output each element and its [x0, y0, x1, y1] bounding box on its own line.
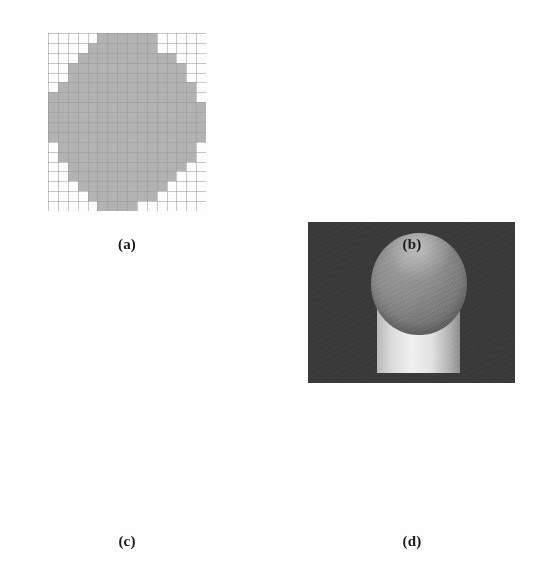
- grid-cell: [58, 171, 68, 181]
- grid-cell: [157, 102, 167, 112]
- grid-cell: [176, 191, 186, 201]
- grid-cell: [176, 112, 186, 122]
- grid-cell: [176, 152, 186, 162]
- grid-cell: [107, 33, 117, 43]
- grid-cell: [68, 112, 78, 122]
- grid-cell: [78, 162, 88, 172]
- grid-cell: [107, 181, 117, 191]
- grid-cell: [97, 33, 107, 43]
- grid-cell: [186, 112, 196, 122]
- grid-cell: [58, 82, 68, 92]
- grid-cell: [147, 63, 157, 73]
- grid-cell: [137, 132, 147, 142]
- grid-cell: [127, 43, 137, 53]
- grid-cell: [48, 142, 58, 152]
- grid-cell: [137, 162, 147, 172]
- caption-panel-a: (a): [88, 236, 166, 253]
- grid-cell: [147, 171, 157, 181]
- grid-cell: [107, 73, 117, 83]
- grid-cell: [68, 73, 78, 83]
- grid-cell: [186, 43, 196, 53]
- grid-cell: [107, 191, 117, 201]
- grid-cell: [117, 53, 127, 63]
- grid-cell: [157, 191, 167, 201]
- grid-cell: [117, 112, 127, 122]
- grid-cell: [127, 82, 137, 92]
- grid-cell: [78, 33, 88, 43]
- grid-cell: [107, 92, 117, 102]
- grid-cell: [48, 92, 58, 102]
- grid-cell: [117, 132, 127, 142]
- grid-cell: [88, 181, 98, 191]
- grid-cell: [167, 181, 177, 191]
- grid-cell: [97, 201, 107, 211]
- grid-cell: [127, 102, 137, 112]
- grid-cell: [88, 132, 98, 142]
- grid-cell: [157, 43, 167, 53]
- grid-cell: [88, 33, 98, 43]
- grid-cell: [97, 73, 107, 83]
- grid-cell: [68, 102, 78, 112]
- grid-cell: [97, 122, 107, 132]
- grid-cell: [48, 63, 58, 73]
- grid-cell: [78, 43, 88, 53]
- grid-cell: [88, 112, 98, 122]
- grid-cell: [97, 171, 107, 181]
- grid-cell: [186, 162, 196, 172]
- grid-cell: [117, 33, 127, 43]
- grid-cell: [97, 181, 107, 191]
- grid-cell: [78, 53, 88, 63]
- grid-cell: [186, 152, 196, 162]
- grid-cell: [127, 92, 137, 102]
- grid-cell: [68, 152, 78, 162]
- grid-cell: [117, 171, 127, 181]
- grid-cell: [97, 142, 107, 152]
- grid-cell: [88, 43, 98, 53]
- grid-cell: [58, 181, 68, 191]
- caption-panel-d: (d): [373, 533, 451, 550]
- grid-cell: [107, 102, 117, 112]
- grid-cell: [58, 162, 68, 172]
- grid-cell: [137, 92, 147, 102]
- grid-cell: [127, 73, 137, 83]
- grid-cell: [58, 142, 68, 152]
- grid-cell: [107, 162, 117, 172]
- grid-cell: [88, 191, 98, 201]
- grid-cell: [97, 112, 107, 122]
- grid-cell: [176, 132, 186, 142]
- grid-cell: [48, 33, 58, 43]
- grid-cell: [48, 171, 58, 181]
- grid-cell: [68, 132, 78, 142]
- grid-cell: [137, 191, 147, 201]
- grid-cell: [117, 82, 127, 92]
- grid-cell: [186, 191, 196, 201]
- grid-cell: [78, 122, 88, 132]
- grid-cell: [58, 112, 68, 122]
- grid-cell: [117, 63, 127, 73]
- grid-cell: [48, 43, 58, 53]
- grid-cell: [48, 82, 58, 92]
- grid-cell: [176, 102, 186, 112]
- grid-cell: [58, 191, 68, 201]
- grid-cell: [196, 73, 206, 83]
- grid-cell: [127, 152, 137, 162]
- grid-cell: [127, 191, 137, 201]
- grid-cell: [107, 53, 117, 63]
- grid-cell: [107, 82, 117, 92]
- grid-cell: [167, 92, 177, 102]
- grid-cell: [68, 181, 78, 191]
- grid-cell: [78, 142, 88, 152]
- grid-cell: [167, 122, 177, 132]
- grid-cell: [196, 162, 206, 172]
- grid-cell: [176, 162, 186, 172]
- grid-cell: [127, 63, 137, 73]
- grid-cell: [157, 82, 167, 92]
- grid-cell: [167, 43, 177, 53]
- grid-cell: [107, 171, 117, 181]
- grid-cell: [176, 181, 186, 191]
- grid-cell: [167, 191, 177, 201]
- grid-cell: [107, 142, 117, 152]
- grid-cell: [97, 152, 107, 162]
- grid-cell: [68, 53, 78, 63]
- grid-cell: [176, 43, 186, 53]
